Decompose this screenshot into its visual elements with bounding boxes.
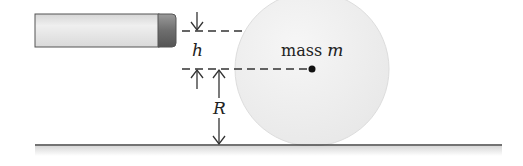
mass-label-prefix: mass <box>281 41 327 60</box>
cue-stick <box>35 14 176 47</box>
mass-label: mass m <box>281 40 343 60</box>
ground-shadow <box>35 146 502 156</box>
mass-symbol: m <box>327 40 343 60</box>
center-of-mass-dot <box>309 66 316 73</box>
ball <box>235 0 389 146</box>
R-label: R <box>212 98 226 118</box>
h-label: h <box>192 40 203 60</box>
diagram: h R mass m <box>0 0 523 166</box>
diagram-canvas: h R mass m <box>0 0 523 166</box>
cue-tip <box>158 14 176 47</box>
